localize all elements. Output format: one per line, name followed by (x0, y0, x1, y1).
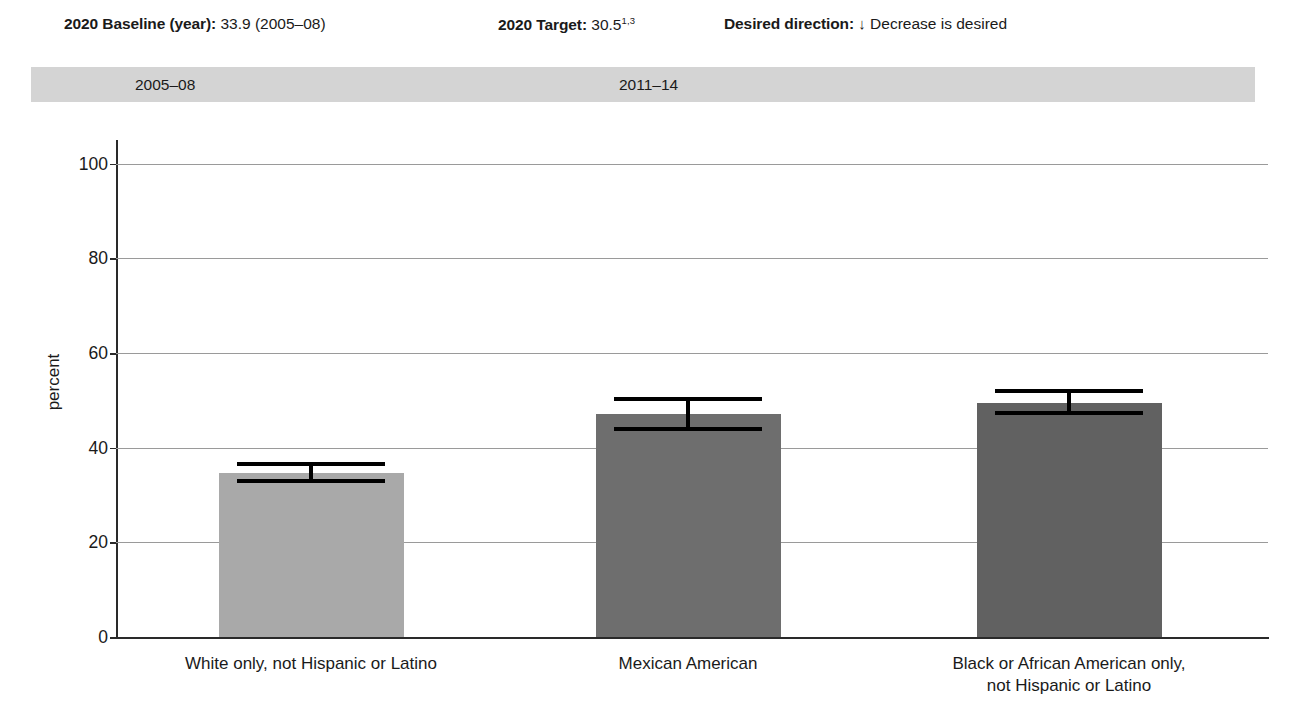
bar[interactable] (596, 414, 781, 637)
error-bar-cap-upper (614, 397, 762, 401)
error-bar (614, 397, 762, 432)
desired-direction-summary: Desired direction: ↓ Decrease is desired (724, 16, 1007, 32)
gridline-100 (116, 164, 1268, 165)
x-axis-category-label: White only, not Hispanic or Latino (111, 653, 511, 675)
gridline-80 (116, 258, 1268, 259)
period-label-1: 2005–08 (135, 76, 195, 94)
error-bar-cap-upper (995, 389, 1143, 393)
period-band: 2005–08 2011–14 (31, 67, 1255, 102)
x-axis-category-label-line: not Hispanic or Latino (869, 675, 1269, 697)
y-tick-label-0: 0 (46, 627, 108, 648)
baseline-value: 33.9 (2005–08) (220, 15, 325, 32)
baseline-label: 2020 Baseline (year): (64, 15, 216, 32)
period-label-2: 2011–14 (619, 76, 678, 94)
baseline-summary: 2020 Baseline (year): 33.9 (2005–08) (64, 16, 326, 32)
error-bar (237, 462, 385, 483)
y-tick-label-40: 40 (46, 437, 108, 458)
error-bar-cap-lower (614, 427, 762, 431)
desired-direction-value: Decrease is desired (870, 15, 1007, 32)
bar-chart: percent 020406080100 White only, not His… (0, 120, 1299, 716)
desired-direction-label: Desired direction: (724, 15, 854, 32)
bar[interactable] (977, 403, 1162, 637)
target-summary: 2020 Target: 30.51,3 (498, 16, 635, 33)
plot-area (116, 140, 1268, 637)
target-value: 30.5 (591, 16, 621, 33)
x-axis-category-label-line: Mexican American (488, 653, 888, 675)
error-bar (995, 389, 1143, 415)
error-bar-cap-lower (237, 479, 385, 483)
target-footnote-marker: 1,3 (621, 15, 635, 26)
x-axis-category-label: Mexican American (488, 653, 888, 675)
error-bar-stem (686, 397, 690, 432)
x-axis-category-label-line: White only, not Hispanic or Latino (111, 653, 511, 675)
y-axis-title: percent (44, 322, 64, 442)
error-bar-cap-lower (995, 411, 1143, 415)
down-arrow-icon: ↓ (858, 15, 866, 32)
summary-header: 2020 Baseline (year): 33.9 (2005–08) 202… (0, 0, 1299, 48)
error-bar-cap-upper (237, 462, 385, 466)
x-axis-category-label-line: Black or African American only, (869, 653, 1269, 675)
y-tick-label-100: 100 (46, 153, 108, 174)
y-tick-label-80: 80 (46, 248, 108, 269)
target-label: 2020 Target: (498, 16, 587, 33)
y-tick-label-20: 20 (46, 532, 108, 553)
bar[interactable] (219, 473, 404, 637)
gridline-60 (116, 353, 1268, 354)
x-axis-category-label: Black or African American only,not Hispa… (869, 653, 1269, 697)
gridline-0 (116, 637, 1268, 638)
y-tick-label-60: 60 (46, 343, 108, 364)
